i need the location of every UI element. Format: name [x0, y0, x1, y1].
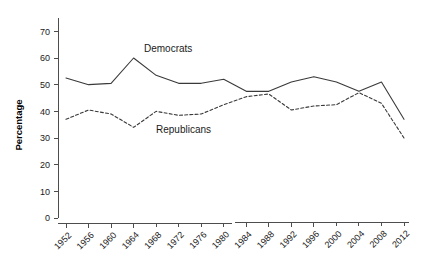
x-tick-label: 1996	[300, 229, 321, 250]
y-axis-title: Percentage	[13, 99, 24, 150]
x-tick-label: 1972	[165, 230, 186, 251]
y-axis-ticks: 010203040506070	[40, 27, 58, 224]
x-tick-label: 1980	[210, 229, 231, 250]
x-tick-label: 1956	[75, 230, 96, 251]
x-tick-label: 1952	[52, 230, 73, 251]
y-tick-label: 50	[40, 80, 50, 90]
line-chart: 010203040506070 195219561960196419681972…	[0, 0, 431, 276]
x-tick-label: 1960	[97, 230, 118, 251]
x-tick-label: 2004	[345, 229, 366, 250]
y-axis: 010203040506070	[40, 18, 58, 223]
series-label-republicans: Republicans	[156, 124, 211, 135]
x-tick-label: 2012	[390, 228, 411, 249]
y-tick-label: 0	[45, 213, 50, 223]
y-tick-label: 40	[40, 107, 50, 117]
x-tick-label: 1976	[187, 230, 208, 251]
x-axis-ticks: 1952195619601964196819721976198019841988…	[52, 222, 411, 251]
x-tick-label: 1964	[120, 230, 141, 251]
x-tick-label: 2008	[368, 229, 389, 250]
series-label-democrats: Democrats	[144, 43, 192, 54]
x-tick-label: 1988	[255, 229, 276, 250]
y-tick-label: 60	[40, 53, 50, 63]
series-line-democrats	[66, 58, 404, 119]
x-tick-label: 1968	[142, 230, 163, 251]
y-tick-label: 30	[40, 133, 50, 143]
x-tick-label: 1984	[232, 229, 253, 250]
series-lines	[66, 58, 404, 138]
chart-container: 010203040506070 195219561960196419681972…	[0, 0, 431, 276]
x-tick-label: 2000	[323, 229, 344, 250]
x-axis: 1952195619601964196819721976198019841988…	[52, 222, 412, 252]
y-tick-label: 20	[40, 160, 50, 170]
series-annotations: Democrats Republicans	[144, 43, 211, 135]
y-tick-label: 10	[40, 187, 50, 197]
series-line-republicans	[66, 93, 404, 138]
x-tick-label: 1992	[278, 229, 299, 250]
y-tick-label: 70	[40, 27, 50, 37]
